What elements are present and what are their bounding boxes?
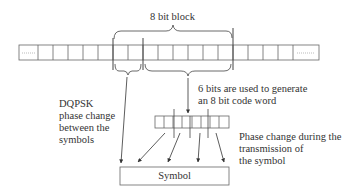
phase-change-label: Phase change during the transmission of … [239, 131, 341, 167]
brace-8bit [114, 25, 232, 39]
dqpsk-label-line4: symbols [59, 134, 115, 146]
arrow-dqpsk-to-symbol [121, 77, 127, 163]
bit-row [19, 45, 319, 60]
symbol-label: Symbol [120, 170, 229, 182]
code-word-box [155, 116, 229, 128]
dqpsk-label-line1: DQPSK [59, 98, 115, 110]
codeword-phase-ticks [174, 109, 208, 138]
dqpsk-label-line3: between the [59, 122, 115, 134]
six-bits-label: 6 bits are used to generate an 8 bit cod… [198, 83, 307, 107]
block-label: 8 bit block [150, 11, 195, 23]
codeword-to-symbol-arrows [138, 133, 224, 162]
brace-6bit [145, 64, 231, 76]
dqpsk-label: DQPSK phase change between the symbols [59, 98, 115, 146]
brace-2bit [115, 64, 141, 75]
phase-label-line3: the symbol [239, 155, 341, 167]
six-bits-label-line2: an 8 bit code word [198, 95, 307, 107]
dqpsk-label-line2: phase change [59, 110, 115, 122]
phase-label-line1: Phase change during the [239, 131, 341, 143]
six-bits-label-line1: 6 bits are used to generate [198, 83, 307, 95]
phase-label-line2: transmission of [239, 143, 341, 155]
